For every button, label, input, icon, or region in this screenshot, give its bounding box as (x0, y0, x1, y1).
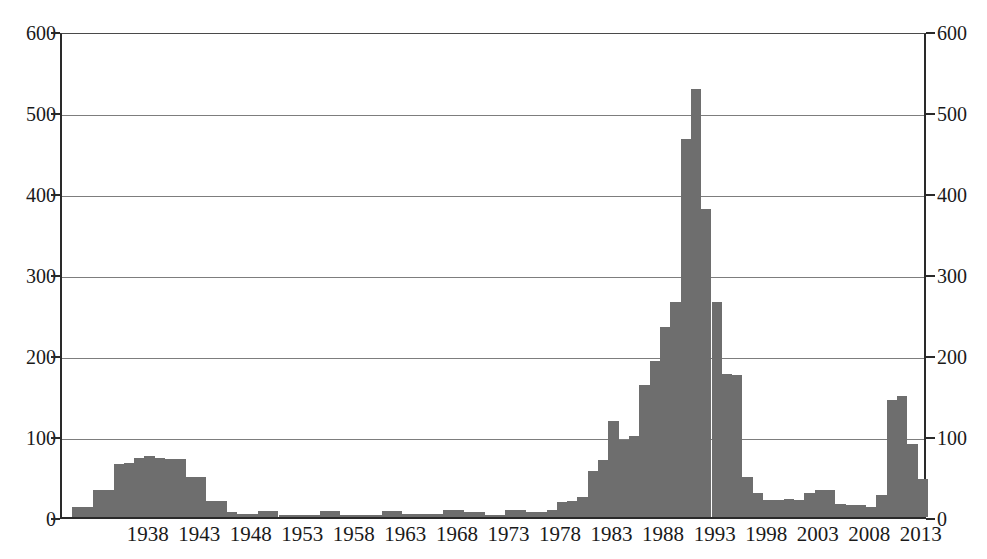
bar-1993 (712, 302, 722, 517)
bar-1980 (577, 497, 587, 517)
bar-1962 (392, 511, 402, 517)
bar-1934 (103, 490, 113, 517)
bar-1977 (547, 510, 557, 517)
x-tick-label-1978: 1978 (539, 524, 581, 545)
y-tick-mark-left-500 (51, 113, 60, 115)
x-tick-label-1993: 1993 (694, 524, 736, 545)
bar-1936 (124, 463, 134, 517)
bar-1966 (433, 514, 443, 517)
bar-1975 (526, 512, 536, 517)
y-tick-mark-right-200 (926, 356, 935, 358)
y-tick-label-right-300: 300 (937, 266, 967, 286)
x-tick-label-1988: 1988 (642, 524, 684, 545)
bar-1943 (196, 477, 206, 518)
bar-1979 (567, 501, 577, 517)
bar-1972 (495, 515, 505, 517)
bar-1994 (722, 374, 732, 517)
bar-1991 (691, 89, 701, 517)
bar-1992 (701, 209, 711, 517)
bar-1946 (227, 512, 237, 517)
y-tick-label-right-600: 600 (937, 23, 967, 43)
bar-1995 (732, 375, 742, 517)
y-tick-label-right-500: 500 (937, 104, 967, 124)
bar-1997 (753, 493, 763, 517)
bar-1971 (485, 515, 495, 517)
y-tick-label-right-100: 100 (937, 428, 967, 448)
y-tick-mark-left-200 (51, 356, 60, 358)
bar-1985 (629, 436, 639, 517)
bar-2009 (876, 495, 886, 517)
bar-1968 (454, 510, 464, 517)
bar-1957 (340, 515, 350, 517)
y-tick-mark-right-400 (926, 194, 935, 196)
bar-1982 (598, 460, 608, 517)
y-tick-label-right-400: 400 (937, 185, 967, 205)
x-tick-label-1963: 1963 (384, 524, 426, 545)
bar-1938 (144, 456, 154, 517)
y-tick-label-right-200: 200 (937, 347, 967, 367)
bar-1937 (134, 458, 144, 517)
bar-1935 (114, 464, 124, 517)
bar-1978 (557, 502, 567, 517)
y-tick-mark-left-400 (51, 194, 60, 196)
bar-1973 (505, 510, 515, 517)
bar-1945 (217, 501, 227, 517)
bar-1986 (639, 385, 649, 517)
bar-2010 (887, 400, 897, 517)
bar-1958 (351, 515, 361, 517)
y-tick-mark-right-300 (926, 275, 935, 277)
bar-1932 (83, 507, 93, 517)
y-tick-mark-right-100 (926, 437, 935, 439)
bar-2011 (897, 396, 907, 518)
bar-1990 (681, 139, 691, 517)
bar-1989 (670, 302, 680, 517)
bar-1931 (72, 507, 82, 517)
bar-1981 (588, 471, 598, 517)
bar-2002 (804, 493, 814, 517)
y-tick-mark-right-600 (926, 32, 935, 34)
chart-container: 0100200300400500600 0100200300400500600 … (0, 0, 987, 559)
bar-1976 (536, 512, 546, 517)
bar-1944 (206, 501, 216, 517)
bar-2012 (907, 444, 917, 517)
x-tick-label-1953: 1953 (281, 524, 323, 545)
bar-2007 (856, 505, 866, 517)
bar-1969 (464, 512, 474, 517)
bar-1951 (279, 515, 289, 517)
bar-1987 (650, 361, 660, 517)
bar-1974 (516, 510, 526, 517)
bar-1996 (742, 477, 752, 518)
y-tick-mark-left-300 (51, 275, 60, 277)
bar-2003 (815, 490, 825, 517)
bar-2008 (866, 507, 876, 517)
bar-1970 (474, 512, 484, 517)
bar-1955 (320, 511, 330, 517)
bar-1933 (93, 490, 103, 517)
bar-2001 (794, 500, 804, 517)
bar-1950 (268, 511, 278, 517)
plot-area (60, 33, 926, 519)
bar-1947 (237, 514, 247, 517)
bar-1967 (443, 510, 453, 517)
y-tick-mark-left-600 (51, 32, 60, 34)
bar-1954 (309, 515, 319, 517)
bar-1942 (186, 477, 196, 518)
x-tick-label-2008: 2008 (848, 524, 890, 545)
x-tick-label-1968: 1968 (436, 524, 478, 545)
bar-1998 (763, 500, 773, 517)
bar-1984 (619, 440, 629, 517)
x-tick-label-1958: 1958 (333, 524, 375, 545)
x-tick-label-1998: 1998 (745, 524, 787, 545)
y-tick-mark-left-0 (51, 518, 60, 520)
bar-1963 (402, 514, 412, 517)
bar-1953 (299, 515, 309, 517)
y-tick-mark-left-100 (51, 437, 60, 439)
x-tick-label-1943: 1943 (178, 524, 220, 545)
bar-1952 (289, 515, 299, 517)
bar-2013 (918, 479, 928, 517)
x-tick-label-1948: 1948 (230, 524, 272, 545)
bar-1956 (330, 511, 340, 517)
bar-1941 (175, 459, 185, 517)
bar-1939 (155, 458, 165, 517)
x-tick-label-1983: 1983 (591, 524, 633, 545)
